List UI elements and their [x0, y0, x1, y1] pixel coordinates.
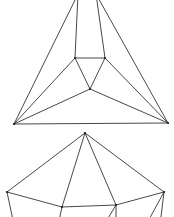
graph-edge: [14, 89, 90, 124]
graph-edge: [75, 58, 90, 89]
graph-edge: [62, 133, 85, 207]
bottom-graph: [6, 132, 165, 217]
graph-vertex: [6, 191, 8, 193]
graph-edge: [58, 207, 62, 217]
graph-edge: [14, 0, 78, 124]
graph-edge: [90, 58, 105, 89]
graph-vertex: [115, 204, 117, 206]
graph-edge: [96, 0, 168, 123]
graph-vertex: [104, 57, 106, 59]
graph-vertex: [89, 88, 91, 90]
graph-vertex: [61, 206, 63, 208]
graph-diagram: [0, 0, 174, 217]
graph-vertex: [13, 123, 15, 125]
graph-edge: [116, 192, 164, 205]
graph-edge: [75, 0, 78, 58]
graph-vertex: [74, 57, 76, 59]
graph-edge: [104, 205, 116, 217]
graph-edge: [14, 123, 168, 124]
graph-edge: [85, 133, 164, 192]
graph-edge: [7, 192, 62, 207]
graph-edge: [85, 133, 116, 205]
graph-vertex: [167, 122, 169, 124]
graph-edge: [62, 205, 116, 207]
graph-edge: [14, 58, 75, 124]
graph-edge: [96, 0, 105, 58]
graph-edge: [7, 133, 85, 192]
graph-vertex: [84, 132, 86, 134]
graph-edge: [90, 89, 168, 123]
graph-edge: [105, 58, 168, 123]
graph-vertex: [163, 191, 165, 193]
top-graph: [13, 0, 169, 125]
graph-edge: [7, 192, 14, 217]
